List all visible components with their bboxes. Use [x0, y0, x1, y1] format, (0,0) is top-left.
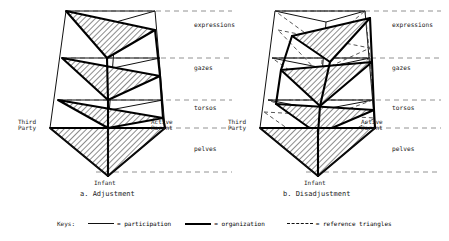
vertex-label-active-parent-b: Active Parent [361, 119, 383, 132]
key-organization: = organization [185, 220, 265, 227]
participation-line-icon [88, 223, 114, 224]
vertex-label-third-party-b: Third Party [228, 119, 246, 132]
row-label-expressions-b: expressions [392, 22, 433, 29]
row-label-torsos-a: torsos [194, 105, 216, 112]
vertex-label-infant-b: Infant [304, 180, 326, 186]
row-label-torsos-b: torsos [392, 105, 414, 112]
keys-legend: = participation = organization = referen… [88, 220, 392, 227]
row-label-gazes-a: gazes [194, 65, 213, 72]
vertex-label-third-party-a: Third Party [18, 119, 36, 132]
keys-title: Keys: [57, 221, 75, 227]
key-reference-triangles-label: = reference triangles [316, 220, 392, 227]
key-organization-label: = organization [214, 220, 265, 227]
organization-line-icon [185, 223, 211, 225]
row-label-pelves-b: pelves [392, 146, 414, 153]
key-participation-label: = participation [117, 220, 171, 227]
caption-panel-b: b. Disadjustment [283, 191, 350, 198]
reference-triangle-line-icon [287, 223, 313, 224]
caption-panel-a: a. Adjustment [80, 191, 135, 198]
vertex-label-infant-a: Infant [94, 180, 116, 186]
vertex-label-active-parent-a: Active Parent [151, 119, 173, 132]
row-label-gazes-b: gazes [392, 65, 411, 72]
row-label-pelves-a: pelves [194, 146, 216, 153]
row-label-expressions-a: expressions [194, 22, 235, 29]
key-reference-triangles: = reference triangles [287, 220, 392, 227]
key-participation: = participation [88, 220, 171, 227]
